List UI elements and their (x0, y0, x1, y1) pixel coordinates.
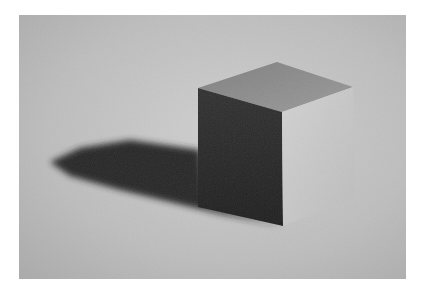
drawing-frame (19, 15, 406, 279)
pencil-grain (19, 15, 406, 279)
cube-drawing (19, 15, 406, 279)
